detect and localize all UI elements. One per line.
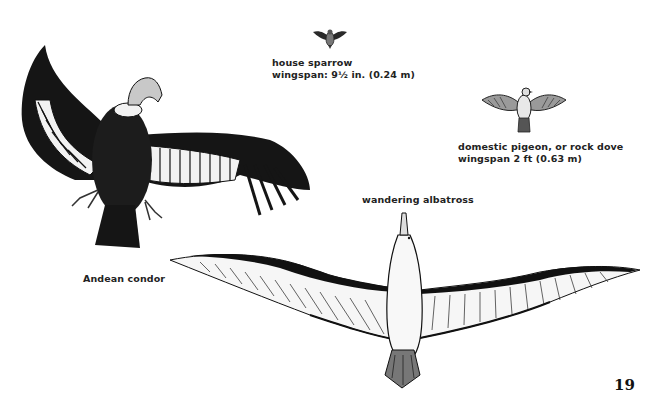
pigeon-illustration: [480, 82, 568, 134]
albatross-illustration: [170, 210, 645, 390]
sparrow-name: house sparrow: [272, 57, 415, 69]
pigeon-wingspan: wingspan 2 ft (0.63 m): [458, 153, 623, 165]
pigeon-name: domestic pigeon, or rock dove: [458, 141, 623, 153]
pigeon-caption: domestic pigeon, or rock dove wingspan 2…: [458, 141, 623, 165]
condor-caption: Andean condor: [83, 273, 165, 285]
sparrow-illustration: [311, 26, 349, 50]
albatross-name: wandering albatross: [362, 194, 474, 206]
page-number: 19: [614, 376, 635, 394]
sparrow-wingspan: wingspan: 9½ in. (0.24 m): [272, 69, 415, 81]
condor-name: Andean condor: [83, 273, 165, 285]
albatross-caption: wandering albatross: [362, 194, 474, 206]
sparrow-caption: house sparrow wingspan: 9½ in. (0.24 m): [272, 57, 415, 81]
